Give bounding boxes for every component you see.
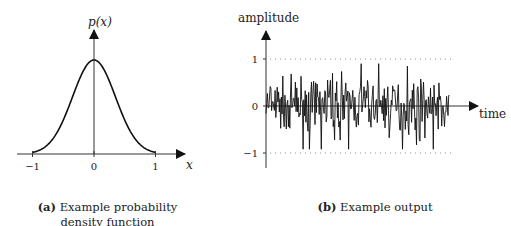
signal-y-tick-label: 1 — [252, 54, 258, 65]
figure: −101 p(x) x 10−1 amplitude time — [0, 0, 511, 226]
signal-y-tick-label: 0 — [252, 101, 258, 112]
signal-plot: 10−1 amplitude time — [238, 11, 506, 168]
caption-b-label: (b) — [317, 200, 336, 214]
pdf-plot: −101 p(x) x — [17, 15, 193, 172]
signal-y-tick-label: −1 — [243, 148, 258, 159]
pdf-x-tick-label: 1 — [152, 161, 158, 172]
caption-a-label: (a) — [38, 200, 56, 214]
caption-a-text: Example probability density function — [60, 200, 178, 226]
signal-xlabel: time — [479, 107, 506, 121]
caption-a: (a) Example probability density function — [20, 200, 195, 226]
signal-ylabel: amplitude — [238, 11, 299, 25]
caption-b: (b) Example output — [300, 200, 450, 215]
caption-b-text: Example output — [340, 200, 432, 214]
pdf-xlabel: x — [186, 158, 193, 172]
pdf-ylabel: p(x) — [88, 15, 112, 29]
pdf-x-tick-label: −1 — [25, 161, 40, 172]
pdf-x-tick-label: 0 — [91, 161, 97, 172]
